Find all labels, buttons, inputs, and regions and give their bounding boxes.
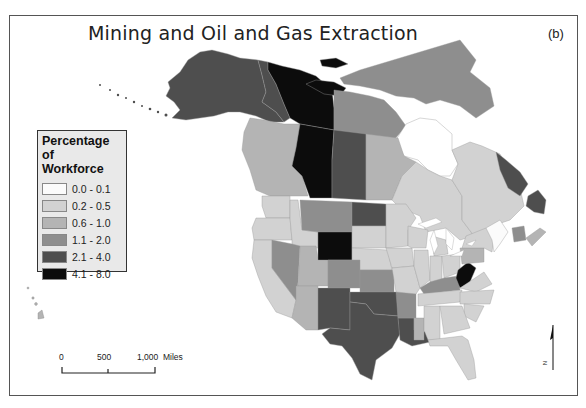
legend-swatch: [42, 251, 67, 263]
north-label: N: [542, 361, 548, 365]
legend-swatch: [42, 183, 67, 195]
legend-swatch: [42, 268, 67, 280]
region-saskatchewan: [332, 130, 366, 200]
legend-label: 0.6 - 1.0: [72, 217, 111, 229]
region-north-carolina: [460, 290, 494, 304]
legend-title-line1: Percentage of: [42, 134, 122, 162]
legend-item: 1.1 - 2.0: [42, 231, 122, 248]
legend-label: 4.1 - 8.0: [72, 268, 111, 280]
aleutian-islands: [99, 84, 168, 117]
legend-label: 0.2 - 0.5: [72, 200, 111, 212]
map-title-text: Mining and Oil and Gas Extraction: [88, 22, 418, 44]
region-wisconsin: [408, 226, 428, 248]
region-mississippi: [414, 318, 424, 340]
region-colorado: [328, 260, 360, 288]
region-north-dakota: [352, 202, 386, 226]
region-alabama: [424, 306, 440, 340]
region-nova-scotia: [526, 228, 546, 246]
map-title: Mining and Oil and Gas Extraction: [0, 22, 586, 44]
region-oregon: [252, 218, 292, 240]
legend-item: 0.6 - 1.0: [42, 214, 122, 231]
legend-swatch: [42, 217, 67, 229]
region-wyoming: [318, 232, 352, 260]
region-hawaii: [27, 287, 44, 319]
region-montana: [300, 200, 352, 232]
legend-swatch: [42, 234, 67, 246]
legend-label: 1.1 - 2.0: [72, 234, 111, 246]
legend-item: 0.0 - 0.1: [42, 180, 122, 197]
region-arkansas: [396, 292, 416, 318]
legend: Percentage of Workforce 0.0 - 0.1 0.2 - …: [37, 130, 127, 272]
legend-swatch: [42, 200, 67, 212]
region-new-brunswick: [512, 226, 526, 242]
legend-item: 4.1 - 8.0: [42, 265, 122, 282]
legend-item: 2.1 - 4.0: [42, 248, 122, 265]
legend-title-line2: Workforce: [42, 162, 122, 176]
region-south-dakota: [352, 226, 386, 248]
region-kansas: [360, 270, 394, 292]
scale-bar-line: [55, 352, 205, 382]
legend-label: 2.1 - 4.0: [72, 251, 111, 263]
region-washington: [262, 196, 290, 218]
region-florida: [428, 336, 476, 380]
scale-bar: 0 500 1,000 Miles: [55, 352, 205, 382]
legend-item: 0.2 - 0.5: [42, 197, 122, 214]
legend-label: 0.0 - 0.1: [72, 183, 111, 195]
region-new-mexico: [318, 288, 350, 330]
north-arrow: N: [543, 322, 559, 372]
panel-label: (b): [548, 26, 564, 41]
region-arizona: [292, 286, 318, 330]
legend-title: Percentage of Workforce: [42, 134, 122, 176]
region-indiana: [430, 256, 442, 282]
